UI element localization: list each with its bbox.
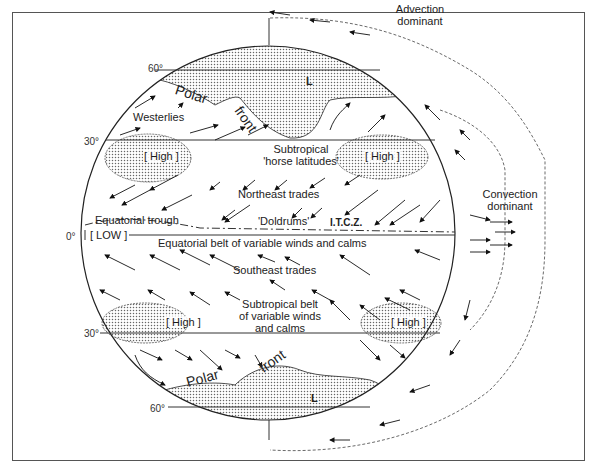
high-pressure-ne-label: [ High ] xyxy=(364,150,401,162)
latitude-30s-label: 30° xyxy=(84,328,99,340)
advection-label-2: dominant xyxy=(380,15,460,27)
convection-label-1: Convection xyxy=(470,188,550,200)
southeast-trades-label: Southeast trades xyxy=(233,264,316,276)
convection-label-2: dominant xyxy=(470,200,550,212)
subtropical-north-label-2: 'horse latitudes' xyxy=(236,155,366,167)
equatorial-trough-label: Equatorial trough xyxy=(95,214,179,226)
advection-label-1: Advection xyxy=(380,3,460,15)
equatorial-belt-label: Equatorial belt of variable winds and ca… xyxy=(158,237,367,249)
high-pressure-nw-label: [ High ] xyxy=(143,150,180,162)
latitude-0-label: 0° xyxy=(66,231,76,243)
subtropical-south-label-2: of variable winds xyxy=(220,310,340,322)
westerlies-label: Westerlies xyxy=(133,111,184,123)
high-pressure-sw-label: [ High ] xyxy=(165,316,202,328)
latitude-60s-label: 60° xyxy=(150,403,165,415)
subtropical-south-label-3: and calms xyxy=(220,322,340,334)
northeast-trades-label: Northeast trades xyxy=(238,188,319,200)
latitude-30n-label: 30° xyxy=(84,136,99,148)
latitude-60n-label: 60° xyxy=(148,63,163,75)
subtropical-south-label-1: Subtropical belt xyxy=(220,298,340,310)
low-south-label: L xyxy=(311,392,318,404)
high-pressure-se-label: [ High ] xyxy=(390,316,427,328)
doldrums-label: 'Doldrums' xyxy=(258,215,309,227)
low-north-label: L xyxy=(306,75,313,87)
itcz-label: I.T.C.Z. xyxy=(330,217,362,229)
low-pressure-equator-label: [ LOW ] xyxy=(88,229,129,241)
subtropical-north-label-1: Subtropical xyxy=(246,143,356,155)
